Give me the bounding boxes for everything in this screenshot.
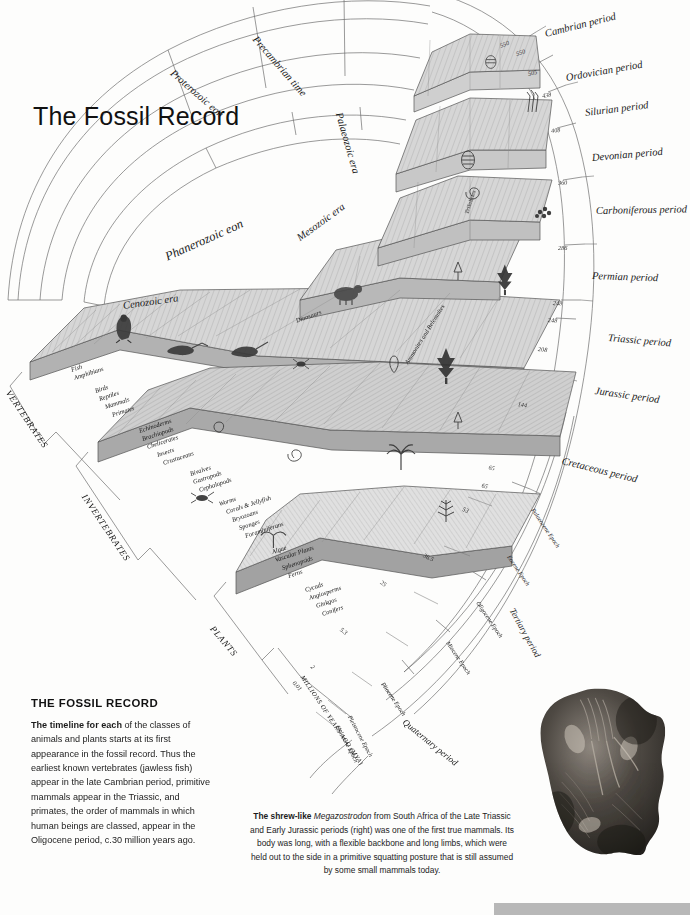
boundary-value-9: 208	[538, 345, 548, 353]
fossil-record-page: The Fossil Record Proterozoic eon Precam…	[0, 0, 690, 915]
caption-box: THE FOSSIL RECORD The timeline for each …	[31, 697, 217, 847]
caption-body: The timeline for each of the classes of …	[31, 718, 217, 847]
boundary-value-10: 144	[517, 400, 527, 409]
period-label-carboniferous: Carboniferous period	[596, 203, 687, 216]
boundary-value-8: 248	[548, 316, 558, 324]
photo-caption-lead: The shrew-like	[253, 811, 314, 821]
caption-lead: The timeline for each	[31, 720, 122, 730]
plants-block	[236, 486, 540, 594]
boundary-value-6: 286	[558, 244, 567, 251]
photo-caption-genus: Megazostrodon	[314, 811, 372, 821]
period-label-permian: Permian period	[592, 270, 659, 283]
boundary-value-7: 248	[553, 299, 563, 306]
boundary-value-5: 360	[558, 179, 568, 186]
caption-heading: THE FOSSIL RECORD	[31, 697, 217, 709]
fossil-photograph	[524, 683, 674, 865]
photo-caption: The shrew-like Megazostrodon from South …	[248, 810, 516, 878]
caption-text: of the classes of animals and plants sta…	[31, 720, 210, 845]
boundary-value-4: 408	[551, 126, 561, 134]
bottom-bar	[494, 903, 690, 915]
